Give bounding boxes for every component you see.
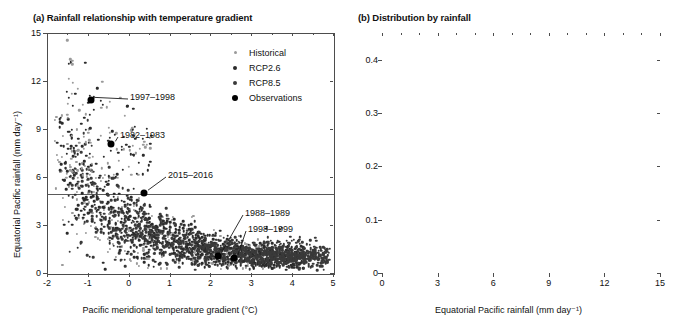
scatter-point [160,267,162,269]
scatter-point [117,152,119,154]
scatter-point [56,141,59,144]
scatter-point [111,130,113,132]
scatter-point [241,239,244,242]
scatter-point [194,246,197,249]
scatter-point [108,242,111,245]
scatter-point [88,255,91,258]
scatter-point [121,199,124,202]
panel-a-ytick-mark [43,177,47,178]
scatter-point [86,254,89,257]
scatter-point [100,219,103,222]
scatter-point [141,207,144,210]
scatter-point [194,256,197,259]
scatter-point [130,174,132,176]
scatter-point [133,217,136,220]
scatter-point [302,267,305,270]
panel-a-yaxis-label: Equatorial Pacific rainfall (mm day⁻¹) [12,111,22,258]
scatter-point [178,243,181,246]
scatter-point [114,214,117,217]
panel-b-xtick-minor-top [512,33,513,35]
scatter-point [326,261,329,264]
scatter-point [143,257,146,260]
scatter-point [147,266,149,268]
scatter-point [148,255,151,258]
scatter-point [71,184,74,187]
scatter-point [111,219,113,221]
scatter-point [90,210,93,213]
panel-a-ytick-label: 12 [16,76,41,86]
scatter-point [260,243,263,246]
scatter-point [83,163,86,166]
panel-a-ytick-mark [43,225,47,226]
scatter-point [109,248,111,250]
scatter-point [103,225,106,228]
scatter-point [213,261,216,264]
legend-item-3: Observations [228,90,302,105]
scatter-point [266,259,269,262]
scatter-point [123,148,125,150]
scatter-point [74,167,77,170]
panel-b-xtick-label: 3 [435,278,440,288]
scatter-point [179,236,182,239]
scatter-point [138,161,140,163]
scatter-point [151,215,153,217]
scatter-point [145,258,147,260]
scatter-point [132,108,134,110]
legend-marker-icon [228,95,242,101]
scatter-point [114,134,116,136]
scatter-point [55,187,57,189]
scatter-point [191,228,194,231]
scatter-point [100,231,103,234]
scatter-point [77,137,79,139]
panel-a-ytick-mark [43,81,47,82]
scatter-point [127,189,130,192]
scatter-point [160,250,163,253]
observation-marker [108,141,115,148]
annotation-label: 1982–1983 [120,130,165,140]
scatter-point [142,249,144,251]
scatter-point [163,222,166,225]
scatter-point [175,258,178,261]
panel-a-ytick-label: 15 [16,28,41,38]
scatter-point [201,264,204,267]
scatter-point [172,259,175,262]
scatter-point [77,204,80,207]
panel-a-ytick-mark-right [330,129,333,130]
scatter-point [198,236,201,239]
scatter-point [121,223,124,226]
scatter-point [293,266,296,269]
scatter-point [249,261,252,264]
scatter-point [314,237,316,239]
scatter-point [261,257,264,260]
scatter-point [236,250,239,253]
scatter-point [71,196,74,199]
scatter-point [130,199,133,202]
scatter-point [71,63,73,65]
scatter-point [220,267,222,269]
scatter-point [182,220,185,223]
scatter-point [153,252,156,255]
scatter-point [286,261,289,264]
observation-marker [214,252,221,259]
panel-b-xtick-mark [438,273,439,277]
scatter-point [99,239,101,241]
scatter-point [219,235,221,237]
scatter-point [74,156,77,159]
annotation-label: 1997–1998 [130,92,175,102]
scatter-point [157,240,160,243]
scatter-point [96,185,99,188]
scatter-point [100,201,103,204]
panel-b-xtick-minor-top [567,33,568,35]
scatter-point [194,226,197,229]
panel-a-ytick-label: 0 [16,268,41,278]
scatter-point [74,184,77,187]
panel-b-xtick-minor-top [623,33,624,35]
panel-a-ytick-mark [43,129,47,130]
scatter-point [125,225,128,228]
scatter-point [134,126,136,128]
scatter-point [96,87,98,89]
scatter-point [81,180,84,183]
scatter-point [183,224,186,227]
scatter-point [241,267,243,269]
scatter-point [174,261,177,264]
